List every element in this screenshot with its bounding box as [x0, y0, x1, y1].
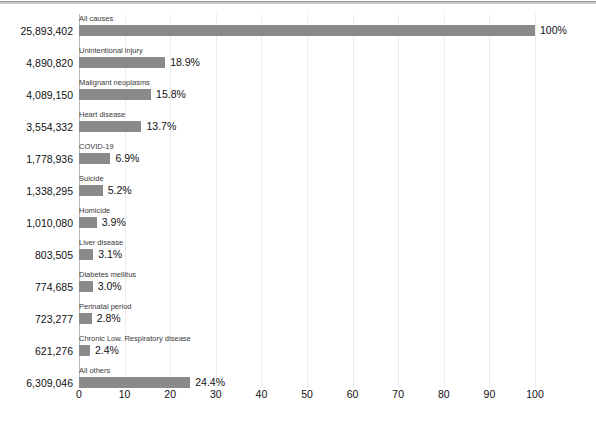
category-label: Malignant neoplasms — [79, 78, 150, 87]
bar[interactable] — [79, 249, 93, 260]
count-label: 774,685 — [0, 281, 73, 293]
bar-row[interactable]: Homicide1,010,0803.9% — [0, 206, 596, 238]
value-label: 13.7% — [146, 120, 176, 133]
value-label: 2.8% — [97, 312, 121, 325]
category-label: Liver disease — [79, 238, 123, 247]
bar[interactable] — [79, 185, 103, 196]
count-label: 4,890,820 — [0, 57, 73, 69]
x-axis: 0102030405060708090100 — [0, 388, 596, 408]
bar[interactable] — [79, 377, 190, 388]
category-label: Diabetes mellitus — [79, 270, 136, 279]
value-label: 3.1% — [98, 248, 122, 261]
value-label: 5.2% — [108, 184, 132, 197]
category-label: Heart disease — [79, 110, 125, 119]
category-label: COVID-19 — [79, 142, 114, 151]
x-tick-label-60: 60 — [347, 388, 359, 401]
category-label: Unintentional injury — [79, 46, 143, 55]
count-label: 1,778,936 — [0, 153, 73, 165]
bar[interactable] — [79, 153, 110, 164]
value-label: 100% — [540, 24, 567, 37]
bar-row[interactable]: Chronic Low. Respiratory disease621,2762… — [0, 334, 596, 366]
bar-row[interactable]: Heart disease3,554,33213.7% — [0, 110, 596, 142]
value-label: 3.9% — [102, 216, 126, 229]
x-tick-label-50: 50 — [301, 388, 313, 401]
bar[interactable] — [79, 57, 165, 68]
value-label: 3.0% — [98, 280, 122, 293]
bar[interactable] — [79, 217, 97, 228]
value-label: 2.4% — [95, 344, 119, 357]
count-label: 803,505 — [0, 249, 73, 261]
x-tick-label-20: 20 — [164, 388, 176, 401]
x-tick-label-70: 70 — [392, 388, 404, 401]
bar[interactable] — [79, 121, 141, 132]
x-tick-label-30: 30 — [210, 388, 222, 401]
bar[interactable] — [79, 89, 151, 100]
count-label: 1,338,295 — [0, 185, 73, 197]
x-tick-label-80: 80 — [438, 388, 450, 401]
count-label: 723,277 — [0, 313, 73, 325]
bar-row[interactable]: Suicide1,338,2955.2% — [0, 174, 596, 206]
bar[interactable] — [79, 25, 535, 36]
bar-rows: All causes25,893,402100%Unintentional in… — [0, 4, 596, 378]
count-label: 4,089,150 — [0, 89, 73, 101]
value-label: 18.9% — [170, 56, 200, 69]
bar[interactable] — [79, 345, 90, 356]
x-tick-label-10: 10 — [119, 388, 131, 401]
value-label: 6.9% — [115, 152, 139, 165]
bar-row[interactable]: Diabetes mellitus774,6853.0% — [0, 270, 596, 302]
bar[interactable] — [79, 313, 92, 324]
count-label: 621,276 — [0, 345, 73, 357]
count-label: 25,893,402 — [0, 25, 73, 37]
category-label: Homicide — [79, 206, 110, 215]
value-label: 15.8% — [156, 88, 186, 101]
category-label: All others — [79, 366, 110, 375]
category-label: Suicide — [79, 174, 104, 183]
bar-row[interactable]: Liver disease803,5053.1% — [0, 238, 596, 270]
bar-row[interactable]: All causes25,893,402100% — [0, 14, 596, 46]
x-tick-label-100: 100 — [526, 388, 544, 401]
bar-row[interactable]: COVID-191,778,9366.9% — [0, 142, 596, 174]
x-tick-label-0: 0 — [76, 388, 82, 401]
bar[interactable] — [79, 281, 93, 292]
category-label: All causes — [79, 14, 113, 23]
x-tick-label-90: 90 — [484, 388, 496, 401]
bar-chart: All causes25,893,402100%Unintentional in… — [0, 4, 596, 424]
category-label: Chronic Low. Respiratory disease — [79, 334, 191, 343]
count-label: 3,554,332 — [0, 121, 73, 133]
bar-row[interactable]: Unintentional injury4,890,82018.9% — [0, 46, 596, 78]
x-tick-label-40: 40 — [256, 388, 268, 401]
bar-row[interactable]: Malignant neoplasms4,089,15015.8% — [0, 78, 596, 110]
bar-row[interactable]: Perinatal period723,2772.8% — [0, 302, 596, 334]
count-label: 1,010,080 — [0, 217, 73, 229]
category-label: Perinatal period — [79, 302, 132, 311]
